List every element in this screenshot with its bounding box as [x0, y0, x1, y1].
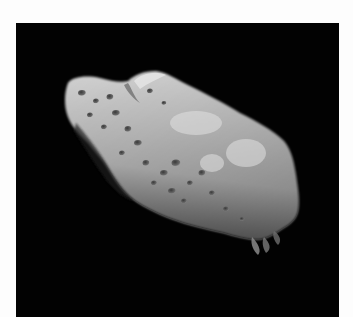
crater — [93, 99, 99, 104]
crater — [172, 160, 181, 167]
image-frame — [0, 0, 353, 317]
crater — [78, 90, 86, 96]
crater — [151, 181, 157, 186]
crater — [223, 207, 229, 212]
crater — [240, 217, 245, 221]
asteroid-tail-fragment — [273, 231, 280, 245]
asteroid-illustration — [16, 23, 339, 317]
crater — [187, 181, 193, 186]
crater — [125, 126, 132, 132]
crater — [199, 170, 206, 176]
crater — [181, 199, 187, 204]
crater — [162, 101, 167, 105]
crater — [101, 125, 107, 130]
highlight-patch — [170, 111, 222, 135]
crater — [112, 110, 120, 116]
crater — [143, 160, 150, 166]
highlight-patch — [226, 139, 266, 167]
crater — [147, 89, 153, 94]
crater — [209, 191, 215, 196]
asteroid-tail-fragment — [263, 237, 270, 253]
crater — [168, 188, 176, 194]
crater — [107, 94, 114, 100]
crater — [134, 140, 142, 146]
crater — [87, 113, 93, 118]
asteroid-tail-fragment — [251, 237, 259, 255]
space-photo — [16, 23, 339, 317]
crater — [160, 170, 168, 176]
highlight-patch — [200, 154, 224, 172]
crater — [119, 151, 125, 156]
